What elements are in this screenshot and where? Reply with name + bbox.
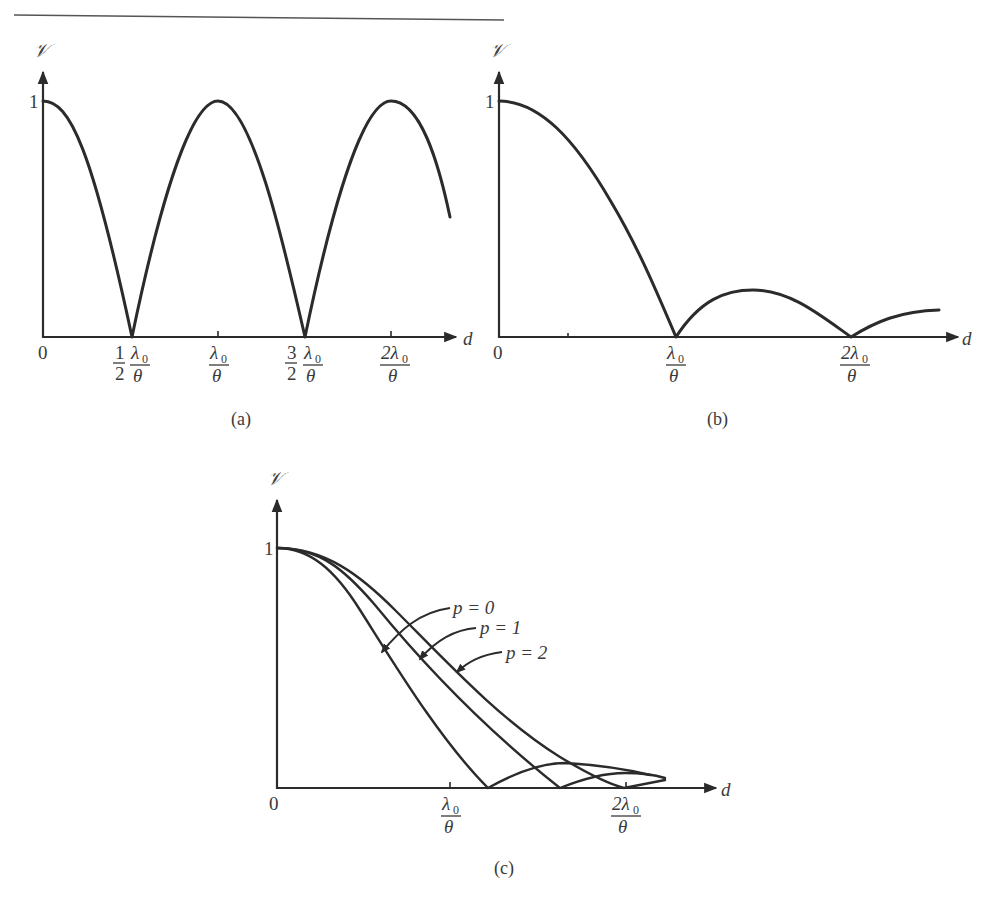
caption-a: (a) (231, 409, 251, 430)
svg-text:λ: λ (303, 342, 312, 363)
y-one-label: 1 (264, 538, 274, 559)
origin-label: 0 (493, 342, 503, 363)
label-p0: p = 0 (451, 597, 495, 618)
y-one-label: 1 (29, 91, 39, 112)
curve-cos (43, 101, 450, 337)
svg-text:0: 0 (453, 803, 459, 817)
svg-text:λ: λ (666, 342, 675, 363)
tick-label-two: 2λ 0 θ (611, 793, 641, 837)
svg-text:0: 0 (315, 352, 321, 366)
svg-text:2: 2 (115, 363, 125, 384)
tick-label-two: 2λ 0 θ (380, 342, 410, 386)
svg-text:θ: θ (212, 365, 221, 386)
caption-b: (b) (707, 409, 728, 430)
panel-b: 𝒱 1 0 d λ 0 θ 2λ 0 θ (b) (485, 40, 972, 430)
svg-text:θ: θ (444, 816, 453, 837)
curve-sinc (499, 101, 939, 337)
panel-c: p = 0 p = 1 p = 2 𝒱 1 0 d λ 0 θ 2λ 0 θ (… (264, 468, 731, 879)
svg-text:3: 3 (287, 342, 297, 363)
y-axis-label: 𝒱 (33, 40, 55, 61)
tick-label-one: λ 0 θ (209, 342, 229, 386)
panel-a: 𝒱 1 0 d 1 2 λ 0 θ λ 0 θ 3 2 λ 0 θ (29, 40, 473, 430)
caption-c: (c) (494, 858, 514, 879)
svg-text:0: 0 (402, 352, 408, 366)
tick-label-two: 2λ 0 θ (840, 342, 870, 386)
leader-p2 (457, 652, 502, 672)
svg-text:θ: θ (306, 365, 315, 386)
x-axis-label: d (721, 779, 731, 800)
curve-p1 (277, 548, 665, 788)
header-rule (14, 15, 504, 20)
x-axis-label: d (962, 328, 972, 349)
x-axis-label: d (463, 328, 473, 349)
svg-text:2λ: 2λ (841, 342, 859, 363)
svg-text:λ: λ (130, 342, 139, 363)
tick-label-one: λ 0 θ (666, 342, 686, 386)
svg-text:λ: λ (209, 342, 218, 363)
svg-text:0: 0 (142, 352, 148, 366)
svg-text:1: 1 (115, 342, 125, 363)
label-p1: p = 1 (478, 617, 521, 638)
svg-text:θ: θ (388, 365, 397, 386)
svg-text:0: 0 (678, 352, 684, 366)
tick-label-half: 1 2 λ 0 θ (113, 342, 150, 386)
y-axis-label: 𝒱 (267, 468, 289, 489)
y-axis-label: 𝒱 (489, 40, 511, 61)
figure-canvas: 𝒱 1 0 d 1 2 λ 0 θ λ 0 θ 3 2 λ 0 θ (0, 0, 1003, 908)
svg-text:θ: θ (133, 365, 142, 386)
svg-text:2λ: 2λ (612, 793, 630, 814)
origin-label: 0 (269, 793, 279, 814)
svg-text:0: 0 (221, 352, 227, 366)
curve-p0 (277, 548, 650, 788)
origin-label: 0 (38, 342, 48, 363)
svg-text:θ: θ (669, 365, 678, 386)
tick-label-three-halves: 3 2 λ 0 θ (285, 342, 323, 386)
label-p2: p = 2 (504, 642, 548, 663)
svg-text:λ: λ (441, 793, 450, 814)
svg-text:θ: θ (847, 365, 856, 386)
curve-p2 (277, 548, 665, 788)
svg-text:0: 0 (862, 352, 868, 366)
svg-text:0: 0 (633, 803, 639, 817)
y-one-label: 1 (485, 91, 495, 112)
svg-text:2: 2 (287, 363, 297, 384)
svg-text:θ: θ (618, 816, 627, 837)
svg-text:2λ: 2λ (381, 342, 399, 363)
tick-label-one: λ 0 θ (441, 793, 461, 837)
